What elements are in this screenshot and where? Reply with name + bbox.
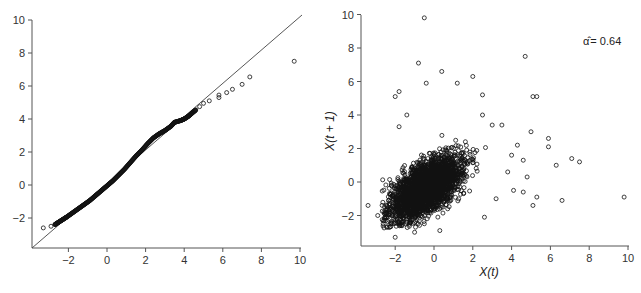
lag-outlier-point	[494, 197, 498, 201]
x-tick-label: 10	[294, 254, 306, 266]
lag-outlier-point	[510, 153, 514, 157]
x-tick-label: 8	[258, 254, 264, 266]
lag-point	[381, 178, 385, 182]
right-y-ticks: −20246810	[341, 9, 361, 222]
lag-outlier-point	[440, 69, 444, 73]
lag-outlier-point	[490, 123, 494, 127]
lag-outlier-point	[570, 157, 574, 161]
lag-outlier-point	[531, 203, 535, 207]
lag-outlier-point	[471, 74, 475, 78]
qq-point	[41, 226, 45, 230]
lag-point	[471, 174, 475, 178]
lag-outlier-point	[500, 123, 504, 127]
x-tick-label: 10	[622, 252, 634, 264]
x-tick-label: 4	[181, 254, 187, 266]
lag-outlier-point	[482, 215, 486, 219]
x-tick-label: 6	[220, 254, 226, 266]
x-tick-label: 8	[586, 252, 592, 264]
x-tick-label: 0	[431, 252, 437, 264]
qq-point	[217, 93, 221, 97]
alpha-hat-annotation: α̂= 0.64	[583, 35, 621, 47]
lag-outlier-point	[413, 230, 417, 234]
lag-point	[475, 162, 479, 166]
lag-outlier-point	[366, 203, 370, 207]
lag-outlier-point	[424, 81, 428, 85]
qq-point	[240, 82, 244, 86]
lag-point	[384, 183, 388, 187]
lag-point	[387, 186, 391, 190]
y-tick-label: 6	[19, 80, 25, 92]
y-tick-label: 10	[13, 14, 25, 26]
lag-outlier-point	[512, 188, 516, 192]
qq-point	[248, 75, 252, 79]
y-tick-label: 0	[348, 176, 354, 188]
lag-outlier-point	[521, 190, 525, 194]
lag-outlier-point	[405, 113, 409, 117]
qq-point	[230, 87, 234, 91]
lag-point	[454, 138, 458, 142]
right-x-ticks: −20246810	[389, 246, 634, 264]
y-tick-label: −2	[341, 210, 354, 222]
lag-point	[436, 215, 440, 219]
lag-outlier-point	[535, 195, 539, 199]
lag-point	[484, 146, 488, 150]
left-y-ticks: −20246810	[12, 14, 32, 224]
lag-outlier-point	[397, 90, 401, 94]
qq-point	[202, 101, 206, 105]
lag-outlier-point	[455, 81, 459, 85]
y-tick-label: 4	[19, 113, 25, 125]
qq-plot: −20246810 −20246810	[12, 14, 306, 266]
qq-point	[207, 99, 211, 103]
lag-outlier-point	[622, 195, 626, 199]
x-tick-label: −2	[389, 252, 402, 264]
qq-point	[49, 224, 53, 228]
y-tick-label: 2	[348, 143, 354, 155]
y-tick-label: 8	[348, 42, 354, 54]
right-x-axis-title: X(t)	[478, 265, 498, 279]
lag-point	[463, 140, 467, 144]
lag-outlier-point	[376, 214, 380, 218]
y-tick-label: 8	[19, 47, 25, 59]
lag-outlier-point	[416, 61, 420, 65]
y-tick-label: 10	[342, 9, 354, 21]
qq-point	[225, 91, 229, 95]
lag-outlier-point	[546, 136, 550, 140]
lag-outlier-point	[523, 54, 527, 58]
qq-point	[292, 59, 296, 63]
qq-point	[198, 105, 202, 109]
figure: −20246810 −20246810 −20246810 −20246810 …	[0, 0, 641, 293]
lag-outlier-point	[397, 125, 401, 129]
lag-outlier-point	[481, 93, 485, 97]
lag-outlier-point	[525, 175, 529, 179]
y-tick-label: 4	[348, 109, 354, 121]
x-tick-label: 4	[509, 252, 515, 264]
lag-outlier-point	[529, 130, 533, 134]
lag-points	[366, 16, 626, 239]
y-tick-label: 0	[19, 179, 25, 191]
lag-outlier-point	[481, 113, 485, 117]
y-tick-label: 6	[348, 76, 354, 88]
x-tick-label: 2	[143, 254, 149, 266]
lag-outlier-point	[506, 170, 510, 174]
left-x-ticks: −20246810	[62, 248, 306, 266]
lag-point	[441, 211, 445, 215]
y-tick-label: −2	[12, 212, 25, 224]
lag-outlier-point	[531, 95, 535, 99]
qq-points	[41, 59, 296, 230]
lag-point	[414, 225, 418, 229]
lag-outlier-point	[515, 143, 519, 147]
lag-outlier-point	[521, 158, 525, 162]
lag-point	[468, 189, 472, 193]
lag-outlier-point	[560, 198, 564, 202]
lag-point	[440, 133, 444, 137]
x-tick-label: 0	[104, 254, 110, 266]
lag-point	[453, 195, 457, 199]
lag-point	[388, 178, 392, 182]
x-tick-label: −2	[62, 254, 75, 266]
lag-outlier-point	[393, 95, 397, 99]
alpha-hat-value: = 0.64	[590, 35, 621, 47]
lag-plot: −20246810 −20246810 X(t) X(t + 1) α̂= 0.…	[323, 9, 634, 280]
right-y-axis-title: X(t + 1)	[323, 111, 337, 152]
lag-outlier-point	[438, 229, 442, 233]
lag-outlier-point	[546, 145, 550, 149]
